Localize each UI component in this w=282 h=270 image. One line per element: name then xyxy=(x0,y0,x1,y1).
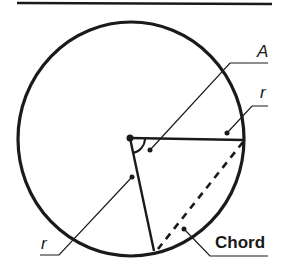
center-point xyxy=(127,135,134,142)
top-rule xyxy=(17,3,272,4)
leader-angle xyxy=(150,63,268,150)
leader-radius-top xyxy=(227,106,268,133)
label-chord: Chord xyxy=(215,233,265,252)
radius-horizontal xyxy=(130,138,244,140)
radius-lower xyxy=(130,138,154,251)
leader-radius-left-dot xyxy=(130,175,135,180)
leader-radius-top-dot xyxy=(225,131,230,136)
leader-angle-dot xyxy=(148,148,153,153)
angle-arc xyxy=(133,139,145,153)
circle-chord-diagram: A r r Chord xyxy=(0,0,282,270)
leader-radius-left xyxy=(40,177,132,255)
label-angle: A xyxy=(256,42,268,61)
leader-chord-dot xyxy=(182,227,187,232)
label-radius-left: r xyxy=(41,234,48,253)
label-radius-top: r xyxy=(260,83,267,102)
